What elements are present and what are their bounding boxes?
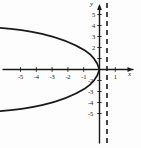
y-axis-arrowhead xyxy=(97,4,102,10)
y-tick-label-neg5: -5 xyxy=(84,111,93,118)
x-tick-label-neg5: -5 xyxy=(16,74,26,81)
x-axis-label: x xyxy=(128,71,131,78)
y-tick-label-4: 4 xyxy=(86,23,95,30)
x-tick-label-pos1: 1 xyxy=(110,74,120,81)
y-tick-label-neg2: -2 xyxy=(84,78,93,85)
y-axis-label: y xyxy=(90,1,93,8)
y-tick-label-2: 2 xyxy=(86,45,95,52)
y-tick-label-neg3: -3 xyxy=(84,89,93,96)
parabola-figure: y x -5 -4 -3 -2 -1 1 5 4 3 2 -2 -3 -4 -5 xyxy=(0,0,141,148)
y-tick-label-5: 5 xyxy=(86,12,95,19)
x-tick-label-neg2: -2 xyxy=(63,74,73,81)
x-tick-label-neg4: -4 xyxy=(31,74,41,81)
y-tick-label-neg4: -4 xyxy=(84,100,93,107)
x-tick-label-neg3: -3 xyxy=(47,74,57,81)
parabola-upper-branch xyxy=(0,28,100,70)
y-tick-label-3: 3 xyxy=(86,34,95,41)
